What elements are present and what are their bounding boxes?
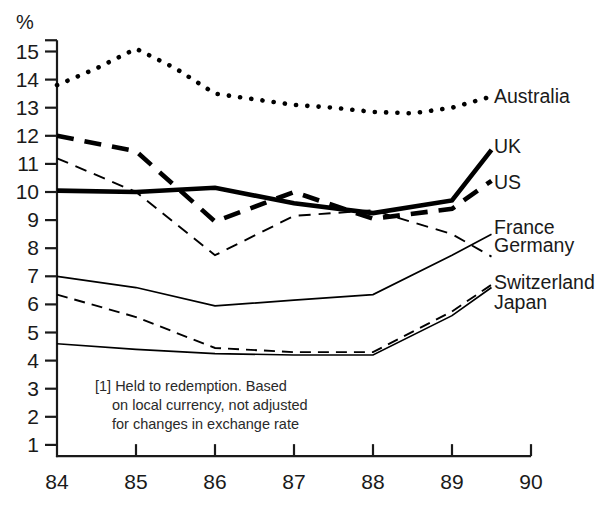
footnote-line-3: for changes in exchange rate	[112, 416, 299, 432]
y-axis-tick-label-7: 7	[27, 264, 39, 287]
series-label-australia: Australia	[494, 85, 570, 107]
x-axis-tick-labels: 84858687888990	[45, 470, 542, 493]
x-axis-tick-label-84: 84	[45, 470, 69, 493]
series-line-uk	[57, 150, 492, 213]
chart-axes	[45, 40, 531, 457]
series-line-japan	[57, 285, 492, 352]
chart-canvas: 151413121110987654321 84858687888990 Aus…	[0, 0, 602, 519]
y-axis-tick-label-1: 1	[27, 433, 39, 456]
y-axis-tick-labels: 151413121110987654321	[16, 40, 40, 456]
y-axis-unit-label: %	[16, 11, 34, 33]
y-axis-tick-label-11: 11	[17, 152, 39, 175]
y-axis-tick-label-9: 9	[27, 208, 39, 231]
series-label-switzerland: Switzerland	[494, 271, 595, 293]
chart-footnote: [1] Held to redemption. Basedon local cu…	[95, 378, 308, 432]
series-line-australia	[57, 49, 492, 114]
series-label-japan: Japan	[494, 291, 547, 313]
series-line-france	[57, 234, 492, 306]
y-axis-tick-label-15: 15	[16, 40, 39, 63]
x-axis-tick-label-85: 85	[124, 470, 147, 493]
series-line-switzerland	[57, 288, 492, 355]
chart-series-lines	[57, 49, 492, 355]
x-axis-tick-label-90: 90	[519, 470, 542, 493]
y-axis-tick-label-3: 3	[27, 377, 39, 400]
y-axis-tick-label-8: 8	[27, 236, 39, 259]
series-label-us: US	[494, 171, 521, 193]
x-axis-tick-label-89: 89	[440, 470, 463, 493]
y-axis-tick-label-13: 13	[16, 96, 39, 119]
series-label-uk: UK	[494, 135, 521, 157]
y-axis-tick-label-4: 4	[27, 349, 39, 372]
y-axis-tick-label-6: 6	[27, 292, 39, 315]
y-axis-tick-label-12: 12	[16, 124, 39, 147]
line-chart-bond-yields: 151413121110987654321 84858687888990 Aus…	[0, 0, 602, 519]
x-axis-tick-label-87: 87	[282, 470, 305, 493]
y-axis-tick-label-5: 5	[27, 321, 39, 344]
footnote-line-2: on local currency, not adjusted	[112, 397, 308, 413]
series-line-us	[57, 136, 492, 222]
x-axis-tick-label-86: 86	[203, 470, 226, 493]
series-label-germany: Germany	[494, 234, 574, 256]
x-axis-tick-label-88: 88	[361, 470, 384, 493]
chart-series-labels: AustraliaUKUSFranceGermanySwitzerlandJap…	[494, 85, 595, 313]
y-axis-tick-label-2: 2	[27, 405, 39, 428]
y-axis-tick-label-10: 10	[16, 180, 39, 203]
y-axis-tick-label-14: 14	[16, 68, 40, 91]
footnote-line-1: [1] Held to redemption. Based	[95, 378, 287, 394]
series-line-germany	[57, 158, 492, 256]
